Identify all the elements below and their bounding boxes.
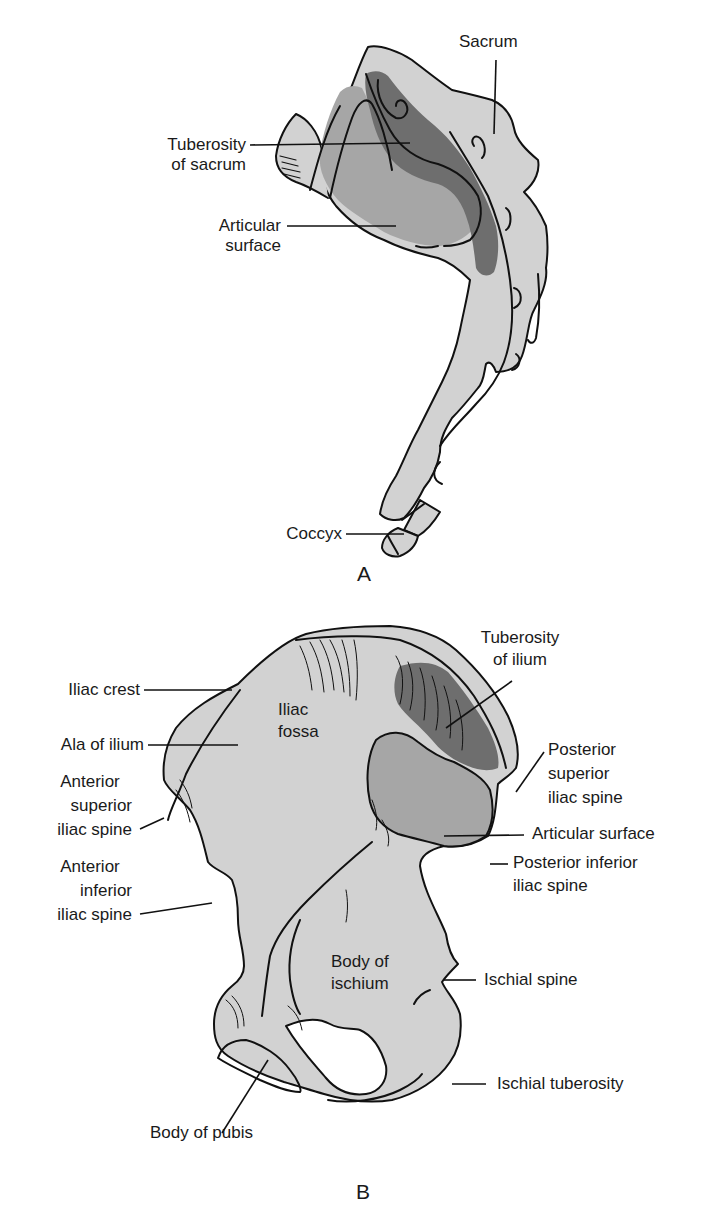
label-psis-line2: superior [548, 764, 609, 784]
label-tuberosity-of-ilium-line2: of ilium [460, 650, 580, 670]
label-iliac-fossa-line2: fossa [278, 722, 319, 742]
sacrum-illustration [276, 46, 548, 556]
anatomy-figure [0, 0, 716, 1225]
label-ischial-tuberosity: Ischial tuberosity [497, 1074, 624, 1094]
label-aiis-line2: inferior [20, 881, 132, 901]
label-ilium-articular-surface: Articular surface [532, 824, 655, 844]
label-aiis-line3: iliac spine [20, 905, 132, 925]
label-tuberosity-of-ilium-line1: Tuberosity [460, 628, 580, 648]
label-piis-line1: Posterior inferior [513, 853, 638, 873]
label-sacrum: Sacrum [459, 32, 518, 52]
label-body-of-ischium-line2: ischium [331, 974, 389, 994]
label-piis-line2: iliac spine [513, 876, 588, 896]
label-psis-line3: iliac spine [548, 788, 623, 808]
label-ala-of-ilium: Ala of ilium [20, 735, 144, 755]
label-asis-line1: Anterior [40, 772, 140, 792]
label-tuberosity-of-sacrum-line1: Tuberosity [140, 135, 246, 155]
hip-bone-illustration [164, 626, 518, 1102]
label-iliac-crest: Iliac crest [20, 680, 140, 700]
label-body-of-pubis: Body of pubis [150, 1123, 253, 1143]
panel-letter-a: A [357, 562, 371, 586]
label-body-of-ischium-line1: Body of [331, 952, 389, 972]
panel-letter-b: B [356, 1180, 370, 1204]
label-asis-line2: superior [20, 796, 132, 816]
label-asis-line3: iliac spine [20, 820, 132, 840]
label-aiis-line1: Anterior [40, 857, 140, 877]
label-ischial-spine: Ischial spine [484, 970, 578, 990]
label-sacrum-articular-surface-line1: Articular [180, 216, 281, 236]
label-tuberosity-of-sacrum-line2: of sacrum [140, 155, 246, 175]
label-psis-line1: Posterior [548, 740, 616, 760]
label-coccyx: Coccyx [250, 524, 342, 544]
label-sacrum-articular-surface-line2: surface [180, 236, 281, 256]
label-iliac-fossa-line1: Iliac [278, 700, 308, 720]
